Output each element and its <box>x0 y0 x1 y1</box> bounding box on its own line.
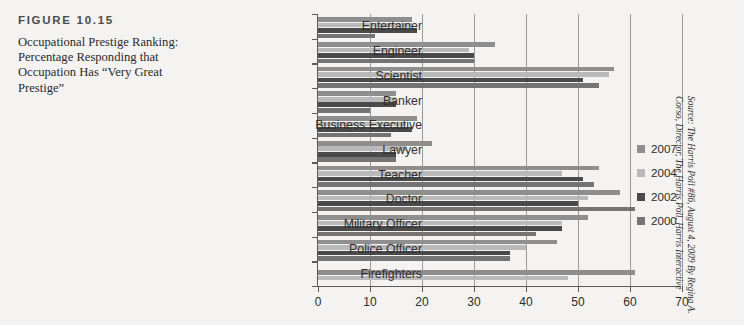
chart-bar <box>318 59 474 64</box>
y-axis-tick <box>312 113 318 114</box>
figure-caption-block: FIGURE 10.15 Occupational Prestige Ranki… <box>18 14 188 96</box>
y-axis-category-label: Teacher <box>378 168 422 182</box>
y-axis-category-label: Doctor <box>386 192 422 206</box>
y-axis-tick <box>312 39 318 40</box>
chart-bar <box>318 133 391 138</box>
chart-bar <box>318 207 635 212</box>
y-axis-category-label: Police Officer <box>349 242 422 256</box>
x-axis-tick-label: 50 <box>571 295 584 309</box>
figure-number-label: FIGURE 10.15 <box>18 14 188 26</box>
legend-swatch-icon <box>637 193 645 201</box>
y-axis-category-label: Entertainer <box>362 19 422 33</box>
legend-swatch-icon <box>637 145 645 153</box>
x-axis-tick-label: 20 <box>415 295 428 309</box>
chart-bar <box>318 190 620 195</box>
chart-bar <box>318 276 568 281</box>
chart-bar <box>318 201 578 206</box>
x-axis-tick-label: 40 <box>519 295 532 309</box>
chart-bar <box>318 182 594 187</box>
x-axis-line <box>317 286 681 287</box>
figure-title-text: Occupational Prestige Ranking: Percentag… <box>18 35 188 96</box>
chart-bar <box>318 78 583 83</box>
y-axis-tick <box>312 261 318 262</box>
y-axis-tick <box>312 88 318 89</box>
y-axis-tick <box>312 187 318 188</box>
chart-gridline <box>630 14 631 286</box>
chart-bar <box>318 67 614 72</box>
legend-swatch-icon <box>637 169 645 177</box>
chart-bar <box>318 196 588 201</box>
y-axis-tick <box>312 212 318 213</box>
y-axis-category-label: Scientist <box>376 69 422 83</box>
chart-gridline <box>526 14 527 286</box>
chart-bar <box>318 108 370 113</box>
y-axis-tick <box>312 138 318 139</box>
chart-bar <box>318 232 536 237</box>
y-axis-category-label: Lawyer <box>382 143 422 157</box>
source-note: Source: The Harris Poll #86, August 4, 2… <box>656 0 700 325</box>
chart-bar <box>318 256 510 261</box>
x-axis-tick-label: 60 <box>623 295 636 309</box>
chart-bar <box>318 157 396 162</box>
x-axis-tick-label: 30 <box>467 295 480 309</box>
chart-gridline <box>578 14 579 286</box>
y-axis-category-label: Banker <box>383 94 422 108</box>
x-axis-tick-label: 10 <box>363 295 376 309</box>
y-axis-tick <box>312 286 318 287</box>
y-axis-category-label: Engineer <box>373 44 422 58</box>
y-axis-tick <box>312 162 318 163</box>
chart-bar <box>318 72 609 77</box>
chart-bar <box>318 34 375 39</box>
legend-swatch-icon <box>637 217 645 225</box>
y-axis-tick <box>312 63 318 64</box>
chart-bar <box>318 166 599 171</box>
y-axis-tick <box>312 237 318 238</box>
chart-bar <box>318 177 583 182</box>
y-axis-category-label: Firefighters <box>360 267 422 281</box>
y-axis-category-label: Military Officer <box>344 217 422 231</box>
y-axis-tick <box>312 14 318 15</box>
chart-bar <box>318 83 599 88</box>
x-axis-tick-label: 0 <box>315 295 322 309</box>
chart-bar <box>318 171 562 176</box>
y-axis-category-label: Business Executive <box>315 118 422 132</box>
